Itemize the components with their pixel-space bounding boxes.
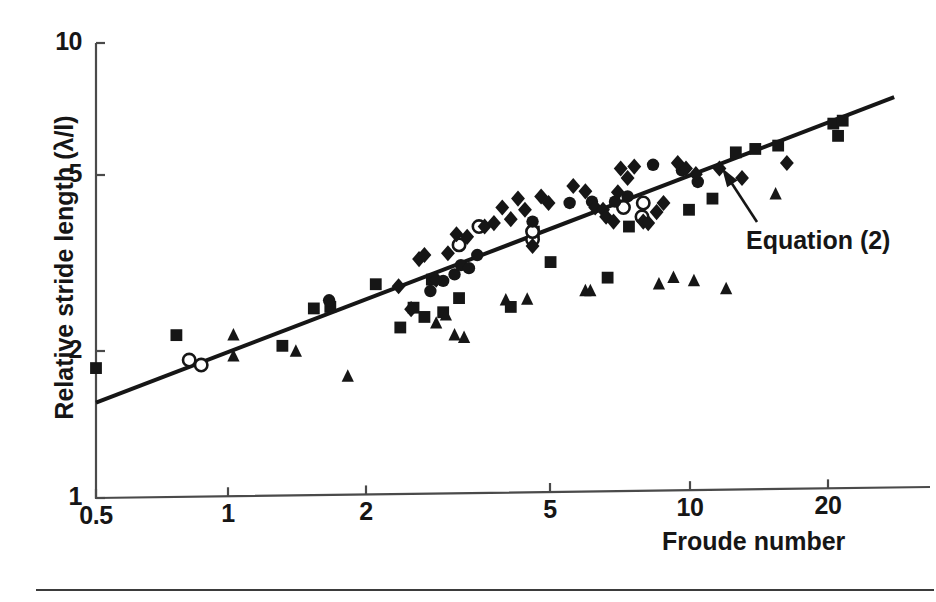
- data-point-filled-circle: [424, 285, 436, 297]
- data-point-filled-diamond: [566, 178, 580, 194]
- data-point-filled-circle: [563, 197, 575, 209]
- data-point-filled-diamond: [392, 278, 406, 294]
- series-filled-square: [90, 115, 849, 374]
- data-point-filled-triangle: [521, 292, 533, 304]
- x-tick-label-5: 5: [510, 495, 590, 524]
- x-tick-label-1: 1: [188, 499, 268, 528]
- axis-lines: [96, 43, 930, 498]
- data-markers: [90, 115, 849, 382]
- data-point-filled-diamond: [504, 211, 518, 227]
- data-point-filled-square: [370, 278, 382, 290]
- data-point-filled-diamond: [780, 155, 794, 171]
- data-point-filled-circle: [647, 159, 659, 171]
- data-point-filled-square: [170, 329, 182, 341]
- data-point-filled-square: [602, 272, 614, 284]
- y-axis-title: Relative stride length (λ/l): [50, 78, 79, 458]
- x-tick-label-20: 20: [788, 491, 868, 520]
- data-point-filled-square: [419, 311, 431, 323]
- series-filled-triangle: [227, 187, 781, 382]
- data-point-filled-triangle: [769, 187, 781, 199]
- data-point-filled-square: [772, 140, 784, 152]
- data-point-filled-square: [707, 193, 719, 205]
- data-point-filled-triangle: [458, 331, 470, 343]
- data-point-filled-triangle: [342, 369, 354, 381]
- series-open-circle: [183, 197, 649, 371]
- data-point-filled-triangle: [688, 274, 700, 286]
- data-point-filled-triangle: [500, 293, 512, 305]
- data-point-open-circle: [195, 359, 207, 371]
- data-point-filled-square: [837, 115, 849, 127]
- data-point-open-circle: [637, 197, 649, 209]
- x-axis-title: Froude number: [662, 527, 845, 556]
- x-tick-label-0-5: 0.5: [56, 501, 136, 530]
- data-point-open-circle: [453, 239, 465, 251]
- data-point-filled-square: [623, 221, 635, 233]
- data-point-filled-circle: [471, 249, 483, 261]
- y-tick-label-10: 10: [0, 27, 82, 56]
- data-point-filled-square: [276, 340, 288, 352]
- data-point-filled-diamond: [495, 199, 509, 215]
- data-point-filled-triangle: [227, 328, 239, 340]
- data-point-filled-triangle: [720, 282, 732, 294]
- data-point-filled-square: [308, 303, 320, 315]
- data-point-filled-triangle: [290, 344, 302, 356]
- data-point-filled-circle: [323, 294, 335, 306]
- data-point-filled-square: [683, 204, 695, 216]
- data-point-filled-square: [394, 322, 406, 334]
- data-point-filled-square: [832, 130, 844, 142]
- figure-panel: 10 5 2 1 0.5 1 2 5 10 20 Relative stride…: [0, 0, 936, 602]
- data-point-filled-square: [749, 143, 761, 155]
- data-point-filled-square: [90, 362, 102, 374]
- x-tick-label-2: 2: [326, 497, 406, 526]
- bottom-divider-rule: [36, 589, 934, 591]
- data-point-filled-triangle: [448, 328, 460, 340]
- data-point-filled-square: [453, 292, 465, 304]
- data-point-filled-square: [545, 256, 557, 268]
- data-point-filled-triangle: [667, 270, 679, 282]
- data-point-filled-square: [730, 146, 742, 158]
- data-point-filled-circle: [463, 262, 475, 274]
- data-point-filled-circle: [526, 215, 538, 227]
- data-point-filled-diamond: [735, 170, 749, 186]
- equation-annotation-label: Equation (2): [746, 226, 890, 255]
- x-tick-label-10: 10: [650, 493, 730, 522]
- data-point-filled-triangle: [653, 277, 665, 289]
- data-point-open-circle: [183, 354, 195, 366]
